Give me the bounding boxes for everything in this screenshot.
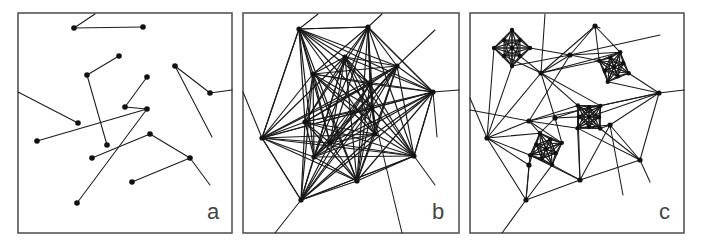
graph-edge — [487, 138, 530, 155]
graph-edge — [487, 73, 541, 138]
graph-edge — [487, 138, 529, 165]
graph-edge — [659, 90, 684, 93]
cluster-node — [510, 28, 514, 32]
cluster-node — [587, 105, 591, 109]
graph-node — [342, 54, 347, 59]
graph-edge — [74, 27, 143, 28]
graph-edge — [640, 160, 650, 182]
cluster-node — [575, 126, 579, 130]
graph-node — [75, 120, 81, 126]
graph-edge — [578, 128, 640, 160]
graph-edge — [600, 128, 640, 160]
cluster-node — [603, 69, 607, 73]
cluster-node — [544, 147, 548, 151]
graph-node — [327, 140, 332, 145]
graph-edge — [541, 14, 545, 73]
graph-node — [484, 135, 489, 140]
graph-edge — [529, 121, 578, 128]
graph-edge — [125, 107, 147, 109]
graph-edge — [540, 118, 555, 133]
cluster-node — [550, 163, 554, 167]
cluster-node — [528, 153, 532, 157]
graph-node — [656, 90, 661, 95]
graph-edge — [595, 26, 599, 61]
graph-edge — [610, 125, 640, 160]
graph-edge — [526, 155, 530, 200]
graph-node — [538, 70, 543, 75]
graph-node — [311, 154, 316, 159]
cluster-node — [502, 54, 506, 58]
panel-label-b: b — [432, 201, 444, 223]
graph-node — [411, 153, 416, 158]
graph-node — [71, 25, 77, 31]
graph-edge — [570, 55, 599, 61]
graph-edge — [600, 93, 659, 106]
cluster-node — [502, 38, 506, 42]
cluster-node — [560, 141, 564, 145]
graph-node — [144, 106, 150, 112]
cluster-node — [587, 115, 591, 119]
graph-edge — [299, 27, 368, 29]
graph-edge — [87, 56, 119, 75]
graph-edge — [210, 90, 232, 93]
graph-node — [302, 119, 307, 124]
graph-edge — [74, 14, 95, 28]
cluster-node — [598, 104, 602, 108]
graph-edge — [175, 66, 210, 93]
graph-edge — [414, 156, 435, 185]
cluster-node — [534, 143, 538, 147]
graph-edge — [610, 125, 623, 195]
graph-node — [89, 155, 95, 161]
graph-node — [104, 142, 110, 148]
graph-edge — [132, 158, 190, 182]
graph-node — [84, 72, 90, 78]
cluster-node — [528, 46, 532, 50]
panel-frame-a — [18, 13, 232, 233]
cluster-node — [597, 59, 601, 63]
cluster-node — [587, 125, 591, 129]
graph-edge — [502, 200, 526, 233]
cluster-node — [608, 56, 612, 60]
cluster-node — [548, 137, 552, 141]
graph-node — [592, 23, 597, 28]
cluster-node — [538, 131, 542, 135]
cluster-node — [518, 38, 522, 42]
graph-node — [637, 157, 642, 162]
cluster-node — [518, 54, 522, 58]
graph-node — [526, 118, 531, 123]
graph-edge — [77, 109, 147, 203]
graph-edge — [487, 48, 494, 138]
cluster-node — [510, 64, 514, 68]
graph-node — [172, 63, 178, 69]
cluster-node — [553, 151, 557, 155]
graph-node — [187, 155, 193, 161]
cluster-node — [612, 65, 616, 69]
graph-edge — [487, 66, 512, 138]
graph-node — [526, 162, 531, 167]
cluster-node — [621, 61, 625, 65]
graph-node — [394, 63, 399, 68]
graph-edge — [190, 158, 210, 185]
panel-a-graph — [18, 13, 232, 233]
graph-edge — [487, 133, 540, 138]
graph-node — [74, 200, 80, 206]
graph-edge — [175, 66, 212, 137]
graph-edge — [487, 121, 529, 138]
cluster-node — [577, 115, 581, 119]
graph-node — [369, 105, 374, 110]
graph-edge — [526, 180, 580, 200]
cluster-node — [576, 103, 580, 107]
graph-edge — [368, 14, 382, 27]
graph-node — [259, 135, 264, 140]
panel-label-c: c — [659, 201, 670, 223]
graph-node — [310, 71, 315, 76]
graph-edge — [414, 92, 433, 156]
cluster-node — [616, 74, 620, 78]
network-diagram-figure — [0, 0, 702, 250]
cluster-node — [618, 50, 622, 54]
graph-node — [296, 26, 301, 31]
graph-edge — [314, 156, 414, 157]
graph-edge — [87, 75, 107, 145]
graph-edge — [18, 92, 78, 123]
graph-edge — [299, 14, 318, 29]
